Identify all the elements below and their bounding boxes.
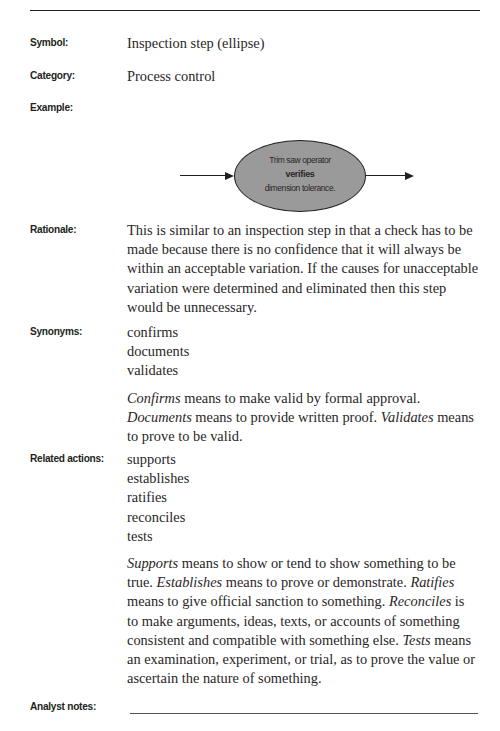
related-actions-label: Related actions:: [30, 452, 104, 464]
analyst-notes-field[interactable]: [130, 713, 478, 714]
ellipse-line-verb: verifies: [235, 169, 365, 179]
synonym-item: validates: [127, 361, 479, 380]
synonym-item: confirms: [127, 323, 479, 342]
top-rule: [30, 10, 480, 11]
definition-term: Validates: [381, 409, 434, 425]
definition-term: Establishes: [157, 574, 223, 590]
related-actions-definitions: Supports means to show or tend to show s…: [127, 554, 479, 688]
category-value: Process control: [127, 67, 479, 86]
category-label: Category:: [30, 69, 75, 81]
rationale-label: Rationale:: [30, 223, 76, 235]
definition-term: Tests: [402, 632, 430, 648]
definition-term: Ratifies: [410, 574, 454, 590]
related-actions-list: supports establishes ratifies reconciles…: [127, 450, 479, 546]
example-label: Example:: [30, 101, 73, 113]
ellipse-line-object: dimension tolerance.: [235, 183, 365, 193]
synonyms-value: confirms documents validates Confirms me…: [127, 323, 479, 446]
analyst-notes-label: Analyst notes:: [30, 700, 96, 712]
definition-text: means to make valid by formal approval.: [181, 390, 421, 406]
definition-term: Reconciles: [389, 593, 451, 609]
ellipse-line-actor: Trim saw operator: [235, 155, 365, 165]
related-action-item: supports: [127, 450, 479, 469]
example-diagram: Trim saw operator verifies dimension tol…: [180, 140, 440, 214]
definition-text: means to give official sanction to somet…: [127, 593, 389, 609]
outgoing-arrow-icon: [366, 175, 412, 176]
definition-term: Confirms: [127, 390, 181, 406]
synonyms-definitions: Confirms means to make valid by formal a…: [127, 389, 479, 447]
related-actions-value: supports establishes ratifies reconciles…: [127, 450, 479, 688]
related-action-item: reconciles: [127, 508, 479, 527]
related-action-item: establishes: [127, 469, 479, 488]
definition-text: means to provide written proof.: [192, 409, 381, 425]
inspection-step-ellipse: Trim saw operator verifies dimension tol…: [234, 140, 366, 212]
symbol-value: Inspection step (ellipse): [127, 34, 479, 53]
synonym-item: documents: [127, 342, 479, 361]
related-action-item: ratifies: [127, 488, 479, 507]
symbol-label: Symbol:: [30, 36, 68, 48]
incoming-arrow-icon: [180, 175, 232, 176]
definition-term: Supports: [127, 555, 178, 571]
rationale-text: This is similar to an inspection step in…: [127, 221, 479, 317]
synonyms-list: confirms documents validates: [127, 323, 479, 381]
synonyms-label: Synonyms:: [30, 325, 82, 337]
definition-term: Documents: [127, 409, 192, 425]
definition-text: means to prove or demonstrate.: [222, 574, 410, 590]
related-action-item: tests: [127, 527, 479, 546]
